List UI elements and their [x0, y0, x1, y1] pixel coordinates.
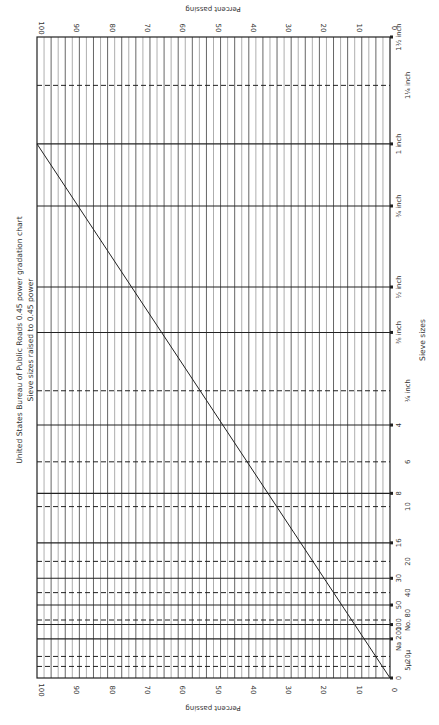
sieve-label: 40	[404, 588, 412, 597]
chart-subtitle: Sieve sizes raised to 0.45 power	[26, 278, 35, 402]
chart-title: United States Bureau of Public Roads 0.4…	[15, 216, 24, 463]
percent-tick-label: 100	[37, 683, 45, 696]
percent-tick-label: 30	[284, 24, 292, 33]
percent-tick-label: 70	[143, 24, 151, 33]
sieve-label: 4	[395, 423, 403, 427]
sieve-label: ⅜ inch	[395, 321, 403, 344]
sieve-label: 20μ	[404, 649, 412, 663]
sieve-label: 1½ inch	[395, 23, 403, 50]
percent-ticks-top: 0102030405060708090100	[37, 21, 398, 34]
sieve-label: 1¼ inch	[404, 72, 412, 99]
sieve-axis-title: Sieve sizes	[418, 319, 427, 361]
sieve-labels: 1½ inch1¼ inch1 inch¾ inch½ inch⅜ inch¼ …	[395, 23, 412, 680]
axis-title-top: Percent passing	[185, 5, 240, 13]
sieve-label: ½ inch	[395, 276, 403, 299]
sieve-label: 10	[404, 502, 412, 511]
percent-tick-label: 30	[284, 686, 292, 695]
percent-tick-label: 10	[355, 24, 363, 33]
sieve-label: 50	[395, 601, 403, 610]
sieve-lines	[37, 36, 393, 680]
sieve-label: Na 200	[395, 627, 403, 651]
percent-tick-label: 20	[319, 686, 327, 695]
percent-tick-label: 10	[355, 686, 363, 695]
percent-tick-label: 60	[178, 686, 186, 695]
sieve-label: 5μ	[404, 661, 412, 670]
axis-title-bottom: Percent passing	[185, 704, 240, 712]
sieve-label: 0	[395, 676, 403, 680]
percent-tick-label: 90	[72, 686, 80, 695]
percent-tick-label: 50	[214, 24, 222, 33]
percent-ticks-bottom: 0102030405060708090100	[37, 683, 398, 696]
sieve-label: 30	[395, 574, 403, 583]
sieve-label: 1 inch	[395, 134, 403, 155]
percent-tick-label: 70	[143, 686, 151, 695]
percent-tick-label: 40	[249, 686, 257, 695]
sieve-label: ¼ inch	[404, 379, 412, 402]
percent-tick-label: 90	[72, 24, 80, 33]
sieve-label: 16	[395, 538, 403, 547]
percent-tick-label: 40	[249, 24, 257, 33]
sieve-label: 6	[404, 460, 412, 464]
percent-grid	[44, 37, 383, 678]
percent-tick-label: 20	[319, 24, 327, 33]
percent-tick-label: 50	[214, 686, 222, 695]
percent-tick-label: 80	[108, 686, 116, 695]
percent-tick-label: 0	[390, 688, 398, 692]
percent-tick-label: 60	[178, 24, 186, 33]
sieve-label: 20	[404, 557, 412, 566]
sieve-label: No. 80	[404, 609, 412, 631]
percent-tick-label: 100	[37, 21, 45, 34]
gradation-chart: 0102030405060708090100 01020304050607080…	[0, 0, 439, 725]
sieve-label: ¾ inch	[395, 194, 403, 217]
sieve-label: 8	[395, 491, 403, 495]
percent-tick-label: 80	[108, 24, 116, 33]
